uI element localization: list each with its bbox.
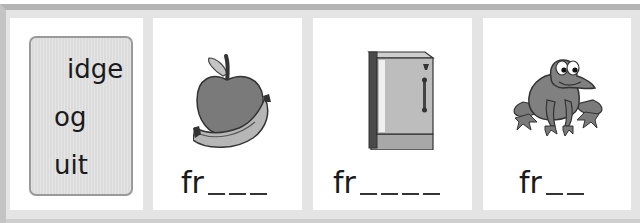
apple-banana-icon [193, 48, 275, 148]
word-prompt-fruit: fr [181, 168, 267, 198]
frog-icon [511, 56, 605, 140]
word-endings-panel: idge og uit [10, 18, 143, 210]
letter-blank[interactable] [567, 193, 584, 195]
word-stem: fr [333, 168, 356, 198]
letter-blank[interactable] [208, 193, 225, 195]
word-ending-uit: uit [54, 150, 88, 180]
letter-blank[interactable] [546, 193, 563, 195]
letter-blank[interactable] [423, 193, 440, 195]
word-prompt-frog: fr [519, 168, 584, 198]
card-frog: fr [483, 18, 631, 210]
word-prompt-fridge: fr [333, 168, 440, 198]
letter-blank[interactable] [381, 193, 398, 195]
letter-blank[interactable] [402, 193, 419, 195]
word-ending-og: og [54, 102, 86, 132]
letter-blank[interactable] [229, 193, 246, 195]
refrigerator-icon [367, 50, 435, 150]
word-stem: fr [519, 168, 542, 198]
word-endings-box: idge og uit [29, 36, 133, 196]
word-ending-idge: idge [67, 54, 123, 84]
word-stem: fr [181, 168, 204, 198]
letter-blank[interactable] [360, 193, 377, 195]
card-fruit: fr [153, 18, 302, 210]
card-fridge: fr [313, 18, 472, 210]
letter-blank[interactable] [250, 193, 267, 195]
